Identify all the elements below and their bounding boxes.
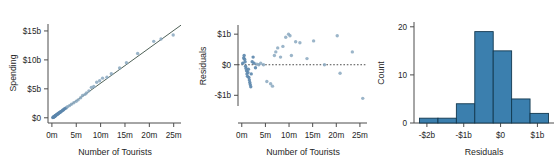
residual-point — [262, 63, 265, 66]
panel-residuals-vs-tourists: -$1b$0$1b Residuals 0m5m10m15m20m25m Num… — [186, 0, 372, 161]
scatter-x-tick-label: 10m — [93, 131, 109, 140]
histogram-y-axis: 01020 Count — [376, 22, 414, 128]
scatter-x-tick-label: 15m — [117, 131, 133, 140]
histogram-bar — [475, 32, 493, 123]
residual-point — [251, 55, 254, 58]
scatter-y-axis-title: Spending — [8, 54, 18, 91]
scatter-point — [92, 85, 95, 88]
residual-x-tick-label: 15m — [305, 131, 321, 140]
panel-spending-vs-tourists: $0$5b$10b$15b Spending 0m5m10m15m20m25m … — [0, 0, 186, 161]
residual-point — [265, 80, 268, 83]
residual-point — [305, 57, 308, 60]
residual-y-tick-label: -$1b — [215, 91, 232, 100]
residual-point — [323, 63, 326, 66]
residual-point — [273, 54, 276, 57]
residual-x-tick-label: 25m — [352, 131, 368, 140]
scatter-x-axis-title: Number of Tourists — [78, 147, 152, 157]
residual-y-tick-label: $1b — [217, 30, 231, 39]
scatter-x-tick-label: 25m — [166, 131, 182, 140]
scatter-point — [118, 66, 121, 69]
residual-points — [241, 32, 364, 100]
residual-point — [336, 34, 339, 37]
residual-x-axis: 0m5m10m15m20m25m Number of Tourists — [236, 123, 368, 157]
histogram-bar — [456, 104, 474, 123]
residual-x-tick-label: 20m — [328, 131, 344, 140]
residual-point — [249, 85, 252, 88]
residual-x-ticks: 0m5m10m15m20m25m — [236, 123, 368, 140]
histogram-bar — [438, 118, 456, 123]
histogram-y-ticks: 01020 — [398, 23, 414, 128]
residual-y-axis-title: Residuals — [198, 46, 208, 85]
scatter-y-tick-label: $15b — [23, 27, 42, 36]
scatter-plot-svg: $0$5b$10b$15b Spending 0m5m10m15m20m25m … — [0, 0, 186, 161]
histogram-x-ticks: -$2b-$1b$0$1b — [419, 123, 545, 140]
residual-point — [290, 54, 293, 57]
histogram-bar — [493, 51, 511, 123]
histogram-x-axis: -$2b-$1b$0$1b Residuals — [414, 123, 554, 157]
histogram-bar — [420, 118, 438, 123]
residual-point — [281, 45, 284, 48]
residual-point — [312, 39, 315, 42]
histogram-y-tick-label: 10 — [398, 71, 408, 80]
residual-point — [254, 66, 257, 69]
scatter-x-axis: 0m5m10m15m20m25m Number of Tourists — [46, 123, 182, 157]
scatter-point — [101, 76, 104, 79]
residual-y-axis: -$1b$0$1b Residuals — [198, 25, 238, 106]
scatter-point — [152, 40, 155, 43]
scatter-point — [125, 61, 128, 64]
residual-point — [288, 34, 291, 37]
scatter-point — [159, 37, 162, 40]
scatter-y-tick-label: $10b — [23, 56, 42, 65]
residual-x-tick-label: 5m — [260, 131, 272, 140]
histogram-bar — [512, 99, 530, 123]
residual-plot-svg: -$1b$0$1b Residuals 0m5m10m15m20m25m Num… — [186, 0, 372, 161]
histogram-y-tick-label: 20 — [398, 23, 408, 32]
scatter-x-tick-label: 0m — [46, 131, 58, 140]
residual-x-axis-title: Number of Tourists — [266, 147, 340, 157]
residual-point — [338, 72, 341, 75]
scatter-points — [51, 33, 175, 119]
scatter-x-tick-label: 5m — [71, 131, 83, 140]
residual-point — [284, 36, 287, 39]
scatter-y-tick-label: $0 — [32, 114, 42, 123]
residual-y-ticks: -$1b$0$1b — [215, 30, 238, 100]
scatter-x-ticks: 0m5m10m15m20m25m — [46, 123, 182, 140]
residual-point — [242, 54, 245, 57]
residual-point — [247, 68, 250, 71]
scatter-y-axis: $0$5b$10b$15b Spending — [8, 24, 48, 123]
residual-point — [271, 84, 274, 87]
residual-point — [246, 71, 249, 74]
residual-x-tick-label: 10m — [281, 131, 297, 140]
scatter-point — [172, 33, 175, 36]
scatter-y-ticks: $0$5b$10b$15b — [23, 27, 48, 123]
residual-point — [276, 46, 279, 49]
residual-point — [250, 72, 253, 75]
scatter-point — [110, 72, 113, 75]
residual-point — [243, 60, 246, 63]
scatter-point — [95, 80, 98, 83]
scatter-point — [87, 89, 90, 92]
histogram-y-tick-label: 0 — [402, 119, 407, 128]
residual-point — [274, 50, 277, 53]
scatter-x-tick-label: 20m — [141, 131, 157, 140]
residual-diagnostic-figure: $0$5b$10b$15b Spending 0m5m10m15m20m25m … — [0, 0, 558, 161]
residual-point — [361, 97, 364, 100]
histogram-x-axis-title: Residuals — [465, 147, 504, 157]
histogram-bar — [530, 113, 548, 123]
residual-point — [279, 55, 282, 58]
histogram-x-tick-label: $0 — [496, 131, 506, 140]
residual-point — [294, 40, 297, 43]
scatter-point — [136, 52, 139, 55]
residual-point — [351, 50, 354, 53]
scatter-y-tick-label: $5b — [27, 85, 41, 94]
residual-y-tick-label: $0 — [222, 61, 232, 70]
histogram-bars — [420, 32, 549, 123]
scatter-point — [98, 79, 101, 82]
histogram-y-axis-title: Count — [376, 61, 386, 85]
residual-x-tick-label: 0m — [236, 131, 248, 140]
panel-residuals-histogram: 01020 Count -$2b-$1b$0$1b Residuals — [372, 0, 558, 161]
residual-point — [298, 41, 301, 44]
histogram-x-tick-label: -$2b — [419, 131, 436, 140]
scatter-point — [105, 76, 108, 79]
histogram-x-tick-label: $1b — [531, 131, 545, 140]
